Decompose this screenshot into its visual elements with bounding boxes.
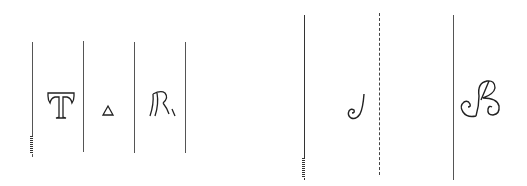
script-j-glyph xyxy=(346,92,368,122)
script-b-glyph xyxy=(457,78,503,120)
divider-line xyxy=(185,42,186,153)
right-panel xyxy=(264,0,527,186)
divider-line xyxy=(453,15,454,180)
triangle-glyph xyxy=(102,105,114,117)
divider-line xyxy=(134,42,135,153)
divider-line xyxy=(304,15,305,180)
scale-bar xyxy=(302,158,305,178)
dashed-divider-line xyxy=(379,13,380,175)
letter-t-glyph xyxy=(46,92,76,120)
scale-bar xyxy=(30,136,33,154)
divider-line xyxy=(83,41,84,152)
letter-r-glyph xyxy=(147,90,177,118)
left-panel xyxy=(0,0,264,186)
